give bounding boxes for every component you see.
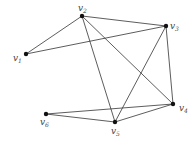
node-v4 [171,102,175,106]
node-v1 [24,52,28,56]
node-v2 [80,14,84,18]
graph-diagram: v1v2v3v4v5v6 [0,0,196,147]
edges-group [26,16,173,122]
node-v3 [164,24,168,28]
node-label-v5: v5 [111,126,120,137]
edge-v6-v5 [46,114,115,122]
node-label-v1: v1 [13,53,22,64]
edge-v5-v4 [115,104,173,122]
edge-v2-v3 [82,16,166,26]
edge-v3-v4 [166,26,173,104]
nodes-group [24,14,175,124]
node-label-v4: v4 [179,103,188,114]
node-v6 [44,112,48,116]
labels-group: v1v2v3v4v5v6 [13,3,188,137]
node-label-v3: v3 [170,21,179,32]
node-v5 [113,120,117,124]
node-label-v6: v6 [40,117,49,128]
node-label-v2: v2 [78,3,87,14]
